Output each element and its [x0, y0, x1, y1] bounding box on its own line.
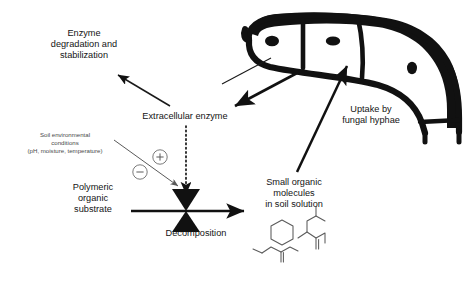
label-uptake-by-fungal-hyphae: Uptake by fungal hyphae	[323, 104, 419, 126]
hypha-nucleus	[326, 36, 340, 45]
positive-sign-badge	[153, 150, 167, 164]
label-soil-environmental-conditions: Soil environmental conditions (pH, moist…	[6, 131, 124, 155]
organic-molecule-sketch-icon	[253, 207, 325, 262]
arrow-hyphae-to-extracellular-enzyme	[235, 72, 299, 106]
label-small-organic-molecules: Small organic molecules in soil solution	[248, 177, 340, 210]
diagram-canvas: Enzyme degradation and stabilization Ext…	[0, 0, 465, 282]
label-enzyme-degradation: Enzyme degradation and stabilization	[26, 28, 142, 61]
negative-sign-badge	[133, 165, 147, 179]
arrow-enzyme-to-degradation	[118, 75, 170, 106]
label-polymeric-organic-substrate: Polymeric organic substrate	[57, 182, 129, 215]
hypha-nucleus	[265, 36, 279, 46]
label-decomposition: Decomposition	[150, 228, 242, 239]
label-extracellular-enzyme: Extracellular enzyme	[121, 111, 249, 122]
hypha-nucleus	[407, 62, 417, 74]
